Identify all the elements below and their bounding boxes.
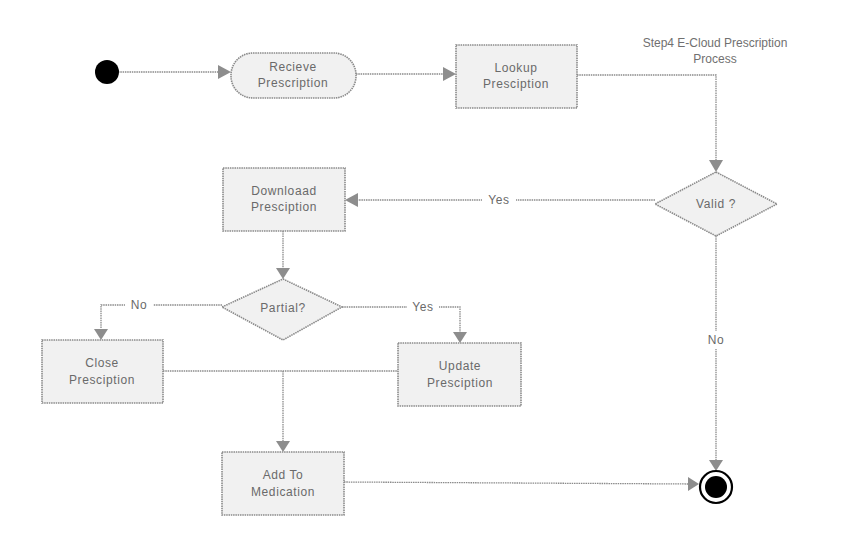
edge-partial-yes-to-update: Yes xyxy=(342,298,467,343)
arrowhead-icon xyxy=(345,193,358,207)
action-add-to-medication[interactable]: Add To Medication xyxy=(222,452,344,515)
arrowhead-icon xyxy=(443,67,456,81)
decision-label: Valid ? xyxy=(696,197,736,211)
decision-valid[interactable]: Valid ? xyxy=(655,172,777,236)
edge-partial-no-to-close: No xyxy=(94,297,222,340)
edge-add-to-end xyxy=(344,477,699,491)
end-node[interactable] xyxy=(700,471,732,503)
arrowhead-icon xyxy=(453,332,467,343)
action-lookup-prescription[interactable]: Lookup Presciption xyxy=(456,45,577,108)
arrowhead-icon xyxy=(276,441,290,452)
decision-partial[interactable]: Partial? xyxy=(222,279,342,340)
decision-label: Partial? xyxy=(260,301,306,315)
node-label-line-2: Presciption xyxy=(69,373,135,387)
title-line-1: Step4 E-Cloud Prescription xyxy=(643,36,788,50)
action-close-prescription[interactable]: Close Presciption xyxy=(42,340,163,403)
node-label-line-1: Update xyxy=(439,359,481,373)
action-update-prescription[interactable]: Update Presciption xyxy=(398,343,521,406)
edge-valid-yes-to-download: Yes xyxy=(345,191,655,207)
node-label-line-1: Add To xyxy=(263,468,304,482)
edge-lookup-to-valid xyxy=(577,75,723,172)
node-label-line-1: Downloaad xyxy=(251,184,316,198)
arrowhead-icon xyxy=(218,65,231,79)
edge-download-to-partial xyxy=(276,231,290,279)
node-label-line-2: Presciption xyxy=(251,200,317,214)
edge-start-to-receive xyxy=(118,65,231,79)
activity-diagram: Step4 E-Cloud Prescription Process Yes N… xyxy=(0,0,849,541)
arrowhead-icon xyxy=(709,460,723,471)
edge-label-valid-yes: Yes xyxy=(488,193,509,207)
edge-label-valid-no: No xyxy=(708,333,725,347)
edge-label-partial-no: No xyxy=(131,298,148,312)
action-download-prescription[interactable]: Downloaad Presciption xyxy=(223,168,345,231)
edge-valid-no-to-end: No xyxy=(702,236,730,471)
arrowhead-icon xyxy=(94,329,108,340)
node-label-line-2: Medication xyxy=(251,485,315,499)
edge-label-partial-yes: Yes xyxy=(412,300,433,314)
arrowhead-icon xyxy=(688,477,699,491)
arrowhead-icon xyxy=(709,160,723,172)
node-label-line-2: Presciption xyxy=(483,77,549,91)
arrowhead-icon xyxy=(276,268,290,279)
node-label-line-1: Lookup xyxy=(495,61,538,75)
edge-receive-to-lookup xyxy=(356,67,456,81)
action-receive-prescription[interactable]: Recieve Prescription xyxy=(231,53,356,98)
diagram-title: Step4 E-Cloud Prescription Process xyxy=(643,36,788,66)
node-label-line-2: Presciption xyxy=(427,376,493,390)
node-label-line-2: Prescription xyxy=(258,76,329,90)
title-line-2: Process xyxy=(693,52,736,66)
edge-merge-to-add xyxy=(163,371,398,452)
node-label-line-1: Close xyxy=(85,356,119,370)
start-node[interactable] xyxy=(95,60,119,84)
node-label-line-1: Recieve xyxy=(269,60,317,74)
